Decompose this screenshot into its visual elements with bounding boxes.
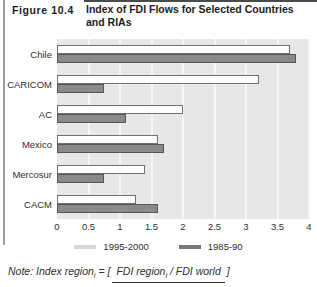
bar-1995-2000 [57, 135, 158, 144]
note-close-bracket: ] [227, 265, 230, 277]
category-labels-column: ChileCARICOMACMexicoMercosurCACM [0, 39, 57, 219]
chart-legend: 1995-2000 1985-90 [0, 241, 317, 252]
bar-1985-90 [57, 54, 296, 63]
bar-1985-90 [57, 204, 158, 213]
legend-label: 1995-2000 [103, 241, 148, 252]
bar-pair-row [57, 129, 309, 159]
category-label: Mercosur [0, 159, 57, 189]
bar-1995-2000 [57, 75, 259, 84]
x-tick-label: 3.5 [271, 221, 284, 232]
legend-swatch-dark [179, 245, 201, 249]
bar-pair-row [57, 159, 309, 189]
x-tick-label: 4 [306, 221, 311, 232]
category-label: Mexico [0, 129, 57, 159]
note-lhs: Index region [36, 265, 94, 277]
legend-label: 1985-90 [208, 241, 243, 252]
x-axis: 00.511.522.533.54 [57, 219, 309, 232]
note-numerator: FDI regioni / FDI world [112, 265, 224, 283]
figure-left-rule [3, 0, 5, 245]
bar-1995-2000 [57, 195, 136, 204]
x-tick-label: 0 [54, 221, 59, 232]
x-tick-label: 2 [180, 221, 185, 232]
figure-header: Figure 10.4 Index of FDI Flows for Selec… [0, 0, 317, 28]
legend-item-1995-2000: 1995-2000 [74, 241, 148, 252]
bar-1985-90 [57, 174, 104, 183]
figure-note: Note: Index regioni = [FDI regioni / FDI… [8, 265, 317, 283]
bar-1995-2000 [57, 165, 145, 174]
bar-pair-row [57, 189, 309, 219]
legend-item-1985-90: 1985-90 [179, 241, 243, 252]
bar-1985-90 [57, 84, 104, 93]
bar-1985-90 [57, 144, 164, 153]
category-label: CACM [0, 189, 57, 219]
bar-pair-row [57, 39, 309, 69]
note-numerator-text: FDI region [116, 265, 165, 277]
note-open-bracket: [ [107, 265, 110, 277]
x-tick-label: 1.5 [145, 221, 158, 232]
bar-pair-row [57, 69, 309, 99]
x-tick-label: 0.5 [82, 221, 95, 232]
bar-pair-row [57, 99, 309, 129]
fdi-bar-chart: ChileCARICOMACMexicoMercosurCACM [0, 39, 317, 219]
bar-1995-2000 [57, 45, 290, 54]
category-label: CARICOM [0, 69, 57, 99]
legend-swatch-light [74, 245, 96, 249]
figure-page: { "header": { "figure_label": "Figure 10… [0, 0, 317, 287]
bar-1985-90 [57, 114, 126, 123]
x-tick-label: 3 [243, 221, 248, 232]
bar-rows [57, 39, 309, 219]
note-equals: = [96, 265, 108, 277]
note-fraction: FDI regioni / FDI world [112, 265, 224, 283]
figure-top-rule [84, 0, 317, 2]
figure-number: Figure 10.4 [12, 3, 86, 16]
note-numerator-text2: / FDI world [167, 265, 221, 277]
x-tick-label: 2.5 [208, 221, 221, 232]
figure-title: Index of FDI Flows for Selected Countrie… [86, 3, 310, 28]
category-label: AC [0, 99, 57, 129]
category-label: Chile [0, 39, 57, 69]
note-label: Note: [8, 265, 33, 277]
bar-1995-2000 [57, 105, 183, 114]
x-tick-label: 1 [117, 221, 122, 232]
plot-area [57, 39, 309, 219]
